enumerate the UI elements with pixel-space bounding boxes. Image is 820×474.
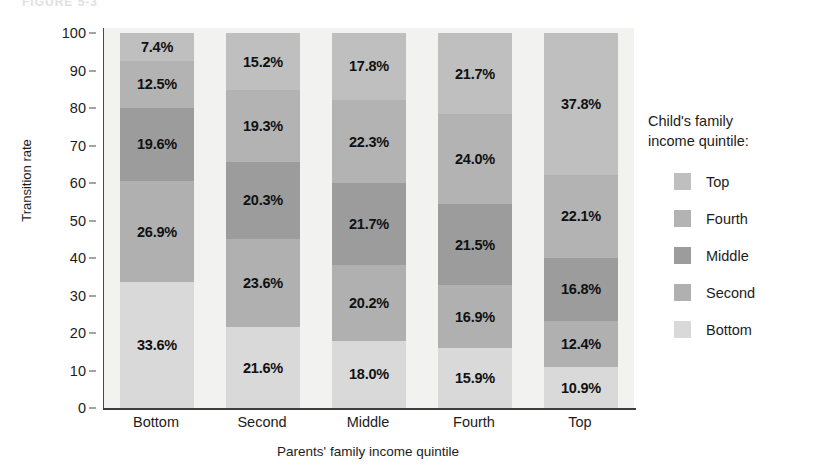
bar-segment-value-label: 37.8% [561, 96, 601, 112]
bar-segment-second-top[interactable]: 15.2% [226, 33, 300, 90]
bar-segment-top-top[interactable]: 37.8% [544, 33, 618, 175]
bar-segment-fourth-middle[interactable]: 21.5% [438, 204, 512, 285]
y-tick-label-60: 60 [70, 175, 86, 191]
x-axis-tick-labels: BottomSecondMiddleFourthTop [103, 414, 633, 438]
y-tick-mark-70 [89, 145, 96, 146]
y-tick-label-10: 10 [70, 363, 86, 379]
bar-segment-value-label: 18.0% [349, 366, 389, 382]
y-tick-mark-40 [89, 258, 96, 259]
x-tick-label-middle: Middle [313, 414, 423, 430]
x-axis-title: Parents' family income quintile [103, 444, 633, 459]
bar-segment-value-label: 15.2% [243, 54, 283, 70]
bar-segment-value-label: 22.3% [349, 134, 389, 150]
bar-segment-middle-middle[interactable]: 21.7% [332, 183, 406, 264]
y-tick-label-0: 0 [78, 400, 86, 416]
bar-segment-value-label: 10.9% [561, 380, 601, 396]
bar-middle[interactable]: 17.8%22.3%21.7%20.2%18.0% [332, 33, 406, 408]
y-tick-label-80: 80 [70, 100, 86, 116]
bar-segment-fourth-top[interactable]: 21.7% [438, 33, 512, 114]
legend-label-top: Top [706, 174, 729, 190]
bar-segment-value-label: 7.4% [141, 39, 173, 55]
legend-item-list: TopFourthMiddleSecondBottom [674, 163, 816, 348]
x-tick-label-second: Second [207, 414, 317, 430]
legend-item-bottom[interactable]: Bottom [674, 311, 816, 348]
y-tick-mark-10 [89, 370, 96, 371]
bar-segment-bottom-top[interactable]: 7.4% [120, 33, 194, 61]
legend-item-fourth[interactable]: Fourth [674, 200, 816, 237]
bar-segment-fourth-fourth[interactable]: 24.0% [438, 114, 512, 204]
bar-top[interactable]: 37.8%22.1%16.8%12.4%10.9% [544, 33, 618, 408]
bar-segment-value-label: 26.9% [137, 224, 177, 240]
legend-item-second[interactable]: Second [674, 274, 816, 311]
x-tick-label-bottom: Bottom [101, 414, 211, 430]
figure-root: FIGURE 5-3 Transition rate 0102030405060… [0, 0, 820, 474]
legend-swatch-top [674, 173, 691, 190]
bar-segment-bottom-middle[interactable]: 19.6% [120, 108, 194, 182]
bar-segment-fourth-second[interactable]: 16.9% [438, 285, 512, 348]
bar-segment-middle-bottom[interactable]: 18.0% [332, 341, 406, 409]
bar-segment-fourth-bottom[interactable]: 15.9% [438, 348, 512, 408]
bar-segment-value-label: 15.9% [455, 370, 495, 386]
legend-title-line-2: income quintile: [648, 132, 816, 152]
legend-item-middle[interactable]: Middle [674, 237, 816, 274]
bar-segment-value-label: 33.6% [137, 337, 177, 353]
bar-segment-middle-second[interactable]: 20.2% [332, 265, 406, 341]
legend-label-second: Second [706, 285, 755, 301]
figure-caption: FIGURE 5-3 [22, 0, 98, 9]
y-axis-tick-labels: 0102030405060708090100 [42, 33, 96, 408]
bar-segment-bottom-second[interactable]: 26.9% [120, 181, 194, 282]
bar-segment-second-fourth[interactable]: 19.3% [226, 90, 300, 162]
legend-title: Child's family income quintile: [648, 112, 816, 151]
x-tick-label-fourth: Fourth [419, 414, 529, 430]
bar-segment-middle-top[interactable]: 17.8% [332, 33, 406, 100]
legend-label-fourth: Fourth [706, 211, 748, 227]
bar-segment-value-label: 24.0% [455, 151, 495, 167]
y-tick-mark-80 [89, 108, 96, 109]
bar-group: 7.4%12.5%19.6%26.9%33.6%15.2%19.3%20.3%2… [104, 28, 634, 408]
bar-segment-value-label: 21.7% [455, 66, 495, 82]
y-tick-label-20: 20 [70, 325, 86, 341]
bar-bottom[interactable]: 7.4%12.5%19.6%26.9%33.6% [120, 33, 194, 408]
y-tick-mark-50 [89, 220, 96, 221]
legend-item-top[interactable]: Top [674, 163, 816, 200]
bar-segment-value-label: 19.3% [243, 118, 283, 134]
y-axis-title: Transition rate [19, 111, 34, 251]
bar-segment-value-label: 21.6% [243, 360, 283, 376]
bar-fourth[interactable]: 21.7%24.0%21.5%16.9%15.9% [438, 33, 512, 408]
x-tick-label-top: Top [525, 414, 635, 430]
bar-segment-bottom-fourth[interactable]: 12.5% [120, 61, 194, 108]
legend-swatch-middle [674, 247, 691, 264]
bar-segment-second-second[interactable]: 23.6% [226, 239, 300, 328]
bar-segment-value-label: 12.4% [561, 336, 601, 352]
bar-segment-top-bottom[interactable]: 10.9% [544, 367, 618, 408]
y-tick-mark-100 [89, 33, 96, 34]
bar-segment-value-label: 17.8% [349, 58, 389, 74]
y-tick-mark-30 [89, 295, 96, 296]
y-tick-label-70: 70 [70, 138, 86, 154]
bar-segment-bottom-bottom[interactable]: 33.6% [120, 282, 194, 408]
bar-segment-value-label: 12.5% [137, 76, 177, 92]
y-tick-label-100: 100 [62, 25, 86, 41]
legend-label-middle: Middle [706, 248, 749, 264]
y-tick-label-30: 30 [70, 288, 86, 304]
bar-segment-middle-fourth[interactable]: 22.3% [332, 100, 406, 184]
bar-segment-value-label: 16.9% [455, 309, 495, 325]
bar-segment-second-middle[interactable]: 20.3% [226, 162, 300, 238]
bar-second[interactable]: 15.2%19.3%20.3%23.6%21.6% [226, 33, 300, 408]
y-tick-label-90: 90 [70, 63, 86, 79]
legend-swatch-bottom [674, 321, 691, 338]
bar-segment-value-label: 19.6% [137, 136, 177, 152]
y-tick-mark-0 [89, 408, 96, 409]
bar-segment-top-second[interactable]: 12.4% [544, 321, 618, 368]
plot-area: 7.4%12.5%19.6%26.9%33.6%15.2%19.3%20.3%2… [103, 28, 634, 408]
bar-segment-top-middle[interactable]: 16.8% [544, 258, 618, 321]
legend-title-line-1: Child's family [648, 112, 816, 132]
bar-segment-value-label: 16.8% [561, 281, 601, 297]
y-tick-mark-60 [89, 183, 96, 184]
legend-label-bottom: Bottom [706, 322, 752, 338]
bar-segment-second-bottom[interactable]: 21.6% [226, 327, 300, 408]
bar-segment-top-fourth[interactable]: 22.1% [544, 175, 618, 258]
legend-swatch-fourth [674, 210, 691, 227]
y-tick-label-40: 40 [70, 250, 86, 266]
y-tick-mark-90 [89, 70, 96, 71]
